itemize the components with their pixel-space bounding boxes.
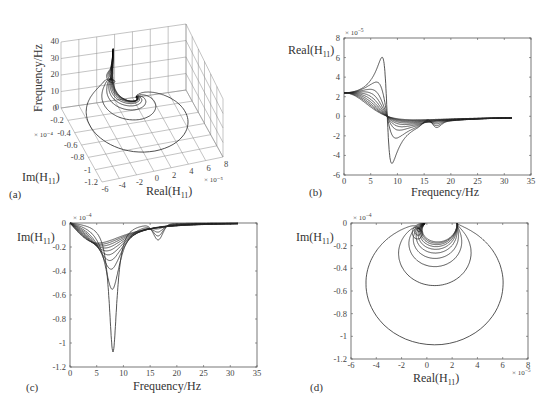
tick-label: -0.2 <box>50 115 63 125</box>
real-curve <box>344 93 512 121</box>
panel-d-ylabel: Im(H11) <box>296 230 334 246</box>
tick-label: 6 <box>207 163 211 173</box>
panel-a-ticks: -6-4-2024680-0.2-0.4-0.6-0.8-1-1.2010203… <box>34 36 228 194</box>
3d-frf-curve <box>112 49 137 101</box>
nyquist-curve <box>422 223 458 243</box>
tick-label: 0 <box>343 218 347 228</box>
tick-label: -1.2 <box>53 362 66 372</box>
tick-label: -6 <box>101 184 108 194</box>
tick-label: -2 <box>136 177 143 187</box>
panel-d-curves <box>366 223 503 345</box>
panel-b-xlabel: Frequency/Hz <box>411 185 479 199</box>
tick-label: -6 <box>347 360 354 370</box>
tick-label: -1.2 <box>334 354 347 364</box>
tick-label: -1 <box>84 165 91 175</box>
tick-label: 0 <box>425 360 429 370</box>
tick-label: -4 <box>119 180 127 190</box>
tick-label: 35 <box>253 368 262 378</box>
panel-a-ylabel: Im(H11) <box>22 170 60 186</box>
panel-a-zlabel: Frequency/Hz <box>31 44 45 112</box>
tick-label: -1 <box>59 338 66 348</box>
tick-label: 20 <box>51 69 60 79</box>
tick-label: 30 <box>226 368 235 378</box>
tick-label: -0.6 <box>53 290 66 300</box>
tick-label: -0.6 <box>64 140 77 150</box>
tick-label: -0.6 <box>334 286 347 296</box>
imag-curve <box>70 223 238 269</box>
panel-c-ticks: 051015202530350-0.2-0.4-0.6-0.8-1-1.2 <box>53 218 262 378</box>
tick-label: 5 <box>95 368 99 378</box>
tick-label: 10 <box>393 176 402 186</box>
tick-label: 35 <box>527 176 536 186</box>
imag-curve <box>70 223 238 251</box>
panel-b-y-exponent: × 10−5 <box>345 27 364 37</box>
tick-label: 2 <box>450 360 454 370</box>
real-curve <box>344 93 512 121</box>
panel-a-y-exponent: × 10⁻⁴ <box>34 131 53 139</box>
panel-a-grid <box>61 24 223 182</box>
tick-label: 40 <box>51 36 60 46</box>
tick-label: 0 <box>155 173 159 183</box>
tick-label: 0 <box>68 368 72 378</box>
tick-label: 25 <box>199 368 208 378</box>
tick-label: -1 <box>340 331 347 341</box>
panel-b-curves <box>344 57 512 163</box>
tick-label: 10 <box>51 86 60 96</box>
panel-c-axes-box <box>70 223 257 367</box>
tick-label: 4 <box>475 360 480 370</box>
panel-a-tag: (a) <box>9 188 22 201</box>
panel-d-tag: (d) <box>310 381 323 394</box>
panel-b-ticks: 0510152025303586420-2-4-6 <box>333 33 535 186</box>
tick-label: 15 <box>146 368 155 378</box>
tick-label: 4 <box>189 166 194 176</box>
tick-label: 2 <box>172 170 176 180</box>
tick-label: -0.8 <box>71 152 84 162</box>
panel-d-nyquist: -6-4-2024680-0.2-0.4-0.6-0.8-1-1.2 × 10−… <box>296 212 531 394</box>
panel-d-xlabel: Real(H11) <box>413 371 459 387</box>
panel-a-x-exponent: × 10⁻⁵ <box>204 176 223 184</box>
tick-label: 30 <box>51 53 60 63</box>
tick-label: 6 <box>336 53 340 63</box>
real-curve <box>344 93 512 120</box>
tick-label: 30 <box>500 176 509 186</box>
panel-a-xlabel: Real(H11) <box>146 184 192 200</box>
tick-label: -0.2 <box>334 241 347 251</box>
tick-label: 8 <box>336 33 340 43</box>
panel-b-tag: (b) <box>309 186 322 199</box>
tick-label: 0 <box>336 111 340 121</box>
tick-label: 4 <box>336 72 341 82</box>
real-curve <box>344 93 512 122</box>
tick-label: -2 <box>398 360 405 370</box>
nyquist-curve <box>366 223 503 345</box>
real-curve <box>344 57 512 163</box>
tick-label: 6 <box>501 360 505 370</box>
tick-label: -0.4 <box>57 128 71 138</box>
panel-c-y-exponent: × 10−4 <box>73 212 92 222</box>
panel-c-curves <box>70 223 238 352</box>
panel-b-real-vs-frequency: 0510152025303586420-2-4-6 × 10−5 Real(H1… <box>288 27 535 199</box>
imag-curve <box>70 223 238 289</box>
3d-frf-curve <box>111 49 138 102</box>
panel-c-imag-vs-frequency: 051015202530350-0.2-0.4-0.6-0.8-1-1.2 × … <box>17 212 261 394</box>
panel-d-axes-box <box>351 223 528 359</box>
tick-label: 5 <box>369 176 373 186</box>
figure: -6-4-2024680-0.2-0.4-0.6-0.8-1-1.2010203… <box>0 0 555 411</box>
panel-c-ylabel: Im(H11) <box>17 230 55 246</box>
tick-label: -0.4 <box>334 263 348 273</box>
tick-label: -0.4 <box>53 266 67 276</box>
tick-label: 0 <box>62 218 66 228</box>
tick-label: 0 <box>55 102 59 112</box>
panel-a-3d-plot: -6-4-2024680-0.2-0.4-0.6-0.8-1-1.2010203… <box>9 24 228 201</box>
tick-label: -4 <box>333 150 341 160</box>
tick-label: 2 <box>336 92 340 102</box>
panel-c-tag: (c) <box>26 381 39 394</box>
tick-label: -1.2 <box>85 177 98 187</box>
tick-label: -6 <box>333 170 340 180</box>
real-curve <box>344 82 512 138</box>
panel-d-y-exponent: × 10−4 <box>353 212 372 222</box>
tick-label: -0.8 <box>53 314 66 324</box>
tick-label: -4 <box>373 360 381 370</box>
tick-label: 8 <box>224 159 228 169</box>
tick-label: 10 <box>119 368 128 378</box>
panel-c-xlabel: Frequency/Hz <box>133 379 201 393</box>
